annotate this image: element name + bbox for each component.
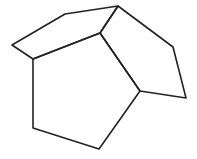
top-left-pentagon bbox=[12, 6, 118, 59]
bottom-pentagon bbox=[33, 33, 140, 149]
pentagon-net-diagram bbox=[0, 0, 197, 159]
right-pentagon bbox=[100, 6, 186, 98]
